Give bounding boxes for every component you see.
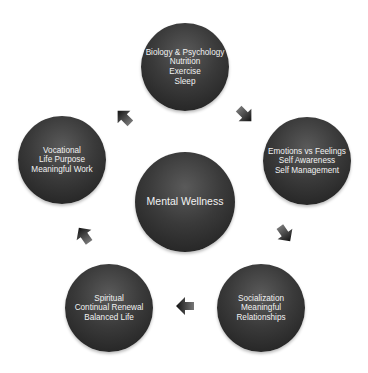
node-line: Relationships xyxy=(236,313,285,323)
node-line: Life Purpose xyxy=(39,155,85,165)
node-vocational: Vocational Life Purpose Meaningful Work xyxy=(18,116,106,204)
node-line: Socialization xyxy=(238,294,284,304)
node-line: Self Management xyxy=(275,166,339,176)
center-node-title: Mental Wellness xyxy=(147,197,224,207)
node-line: Exercise xyxy=(169,67,200,77)
node-socialization: Socialization Meaningful Relationships xyxy=(217,264,305,352)
center-node-mental-wellness: Mental Wellness xyxy=(135,152,235,252)
node-line: Emotions vs Feelings xyxy=(268,147,346,157)
node-biology-psychology: Biology & Psychology Nutrition Exercise … xyxy=(141,23,229,111)
node-line: Sleep xyxy=(175,77,196,87)
node-line: Meaningful Work xyxy=(31,165,92,175)
node-line: Spiritual xyxy=(94,294,124,304)
node-line: Biology & Psychology xyxy=(146,48,225,58)
arrow-bottom-left-to-left-icon xyxy=(69,220,100,251)
arrow-top-to-right-icon xyxy=(229,99,260,130)
arrow-bottom-right-to-bottom-left-icon xyxy=(174,295,196,317)
node-spiritual: Spiritual Continual Renewal Balanced Lif… xyxy=(65,264,153,352)
node-line: Nutrition xyxy=(170,57,201,67)
node-line: Vocational xyxy=(43,146,81,156)
node-line: Self Awareness xyxy=(279,156,335,166)
node-line: Meaningful xyxy=(241,303,281,313)
arrow-left-to-top-icon xyxy=(108,101,139,132)
node-emotions-feelings: Emotions vs Feelings Self Awareness Self… xyxy=(263,117,351,205)
node-line: Continual Renewal xyxy=(75,303,144,313)
node-line: Balanced Life xyxy=(84,313,134,323)
arrow-right-to-bottom-right-icon xyxy=(270,219,301,250)
